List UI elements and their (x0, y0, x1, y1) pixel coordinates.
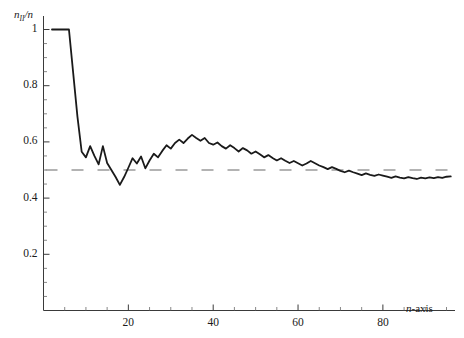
axis-lines (44, 16, 456, 311)
chart-container: 0.20.40.60.81 20406080 nII/n n-axis (0, 0, 464, 338)
x-tick-label: 80 (363, 317, 403, 329)
y-tick-label: 1 (0, 23, 38, 35)
plot-area (0, 0, 464, 338)
y-tick-label: 0.6 (0, 135, 38, 147)
y-tick-label: 0.4 (0, 192, 38, 204)
y-axis-title: nII/n (14, 9, 33, 23)
data-series-line (52, 30, 451, 185)
x-tick-label: 60 (278, 317, 318, 329)
x-axis-title: n-axis (406, 303, 433, 314)
x-tick-label: 40 (193, 317, 233, 329)
y-tick-label: 0.2 (0, 248, 38, 260)
x-tick-label: 20 (108, 317, 148, 329)
y-tick-label: 0.8 (0, 79, 38, 91)
